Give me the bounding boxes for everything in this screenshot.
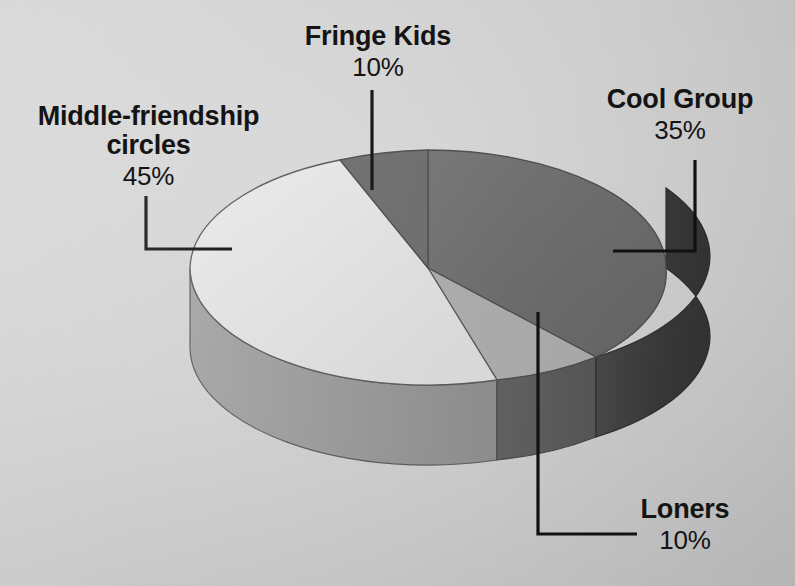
label-middle-friendship-circles: Middle-friendship circles 45% bbox=[6, 102, 291, 191]
label-cool-group: Cool Group 35% bbox=[565, 85, 795, 145]
label-middle-friendship-value: 45% bbox=[6, 163, 291, 191]
label-loners: Loners 10% bbox=[580, 495, 790, 555]
label-fringe-kids-value: 10% bbox=[228, 54, 528, 82]
label-loners-title: Loners bbox=[580, 495, 790, 524]
label-fringe-kids-title: Fringe Kids bbox=[228, 22, 528, 51]
label-middle-friendship-title-line1: Middle-friendship bbox=[6, 102, 291, 131]
label-middle-friendship-title-line2: circles bbox=[6, 131, 291, 160]
label-cool-group-title: Cool Group bbox=[565, 85, 795, 114]
label-loners-value: 10% bbox=[580, 527, 790, 555]
label-cool-group-value: 35% bbox=[565, 117, 795, 145]
pie-chart-image: Fringe Kids 10% Cool Group 35% Middle-fr… bbox=[0, 0, 795, 586]
label-fringe-kids: Fringe Kids 10% bbox=[228, 22, 528, 82]
